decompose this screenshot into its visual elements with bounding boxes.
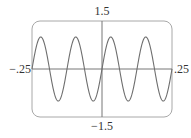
x-min-label: −.25 (9, 63, 31, 75)
y-min-label: −1.5 (91, 120, 113, 132)
x-max-label: .25 (174, 63, 189, 75)
sine-chart: 1.5 −1.5 −.25 .25 (0, 0, 191, 138)
y-max-label: 1.5 (95, 5, 110, 17)
